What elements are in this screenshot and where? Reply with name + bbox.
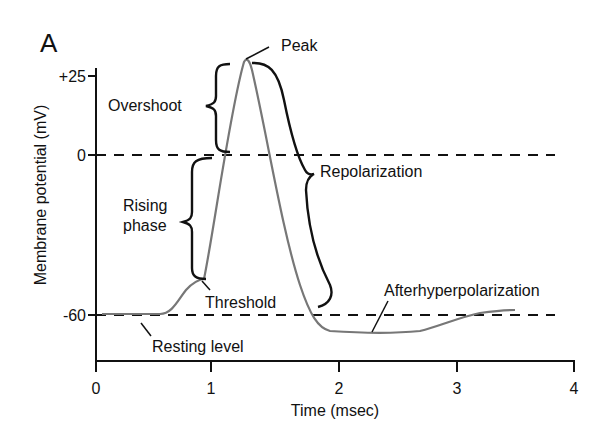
x-tick-label: 0 — [92, 380, 101, 397]
rising-phase-label-line1: Rising — [123, 197, 167, 214]
repolarization-brace — [252, 63, 332, 307]
y-tick-label: -60 — [63, 307, 86, 324]
overshoot-label: Overshoot — [108, 97, 182, 114]
y-axis-label: Membrane potential (mV) — [32, 105, 49, 286]
threshold-leader-line — [202, 281, 210, 290]
y-tick-label: +25 — [59, 68, 86, 85]
panel-label: A — [40, 28, 58, 58]
action-potential-chart: A +25 0 -60 Membrane potential (mV) 0 1 … — [0, 0, 610, 443]
peak-leader-line — [246, 47, 269, 59]
overshoot-brace — [206, 64, 230, 152]
afterhyperpolarization-label: Afterhyperpolarization — [384, 282, 540, 299]
x-axis-label: Time (msec) — [291, 402, 379, 419]
resting-level-label: Resting level — [152, 338, 244, 355]
x-tick-label: 3 — [453, 380, 462, 397]
resting-leader-line — [141, 323, 151, 336]
rising-phase-label-line2: phase — [123, 217, 167, 234]
repolarization-label: Repolarization — [320, 163, 422, 180]
x-tick-label: 4 — [570, 380, 579, 397]
x-tick-label: 1 — [207, 380, 216, 397]
x-tick-label: 2 — [335, 380, 344, 397]
peak-label: Peak — [281, 37, 318, 54]
y-tick-label: 0 — [77, 147, 86, 164]
threshold-label: Threshold — [205, 294, 276, 311]
ahp-leader-line — [372, 301, 388, 332]
